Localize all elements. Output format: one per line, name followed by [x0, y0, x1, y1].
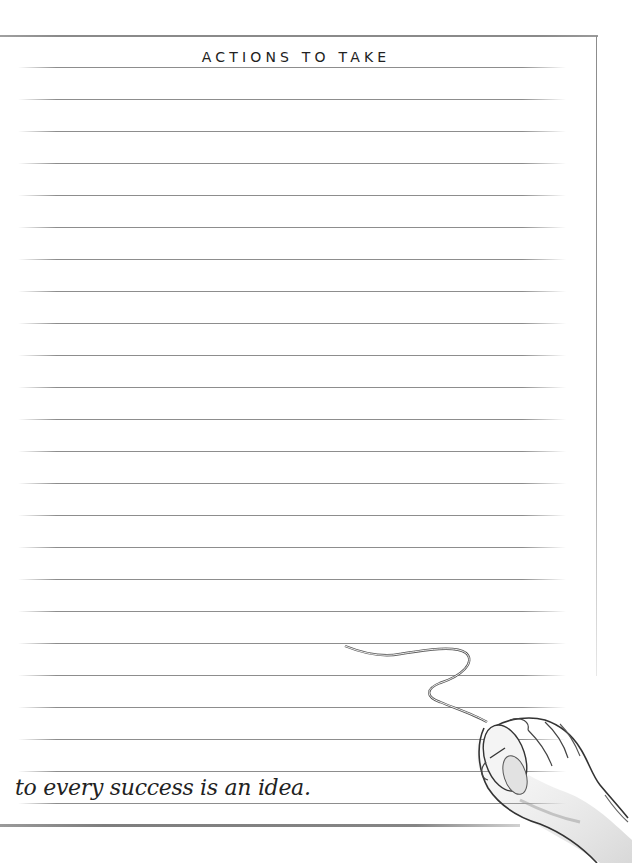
ruled-line: [18, 195, 566, 196]
ruled-line: [18, 291, 566, 292]
ruled-line: [18, 387, 566, 388]
ruled-line: [18, 611, 566, 612]
ruled-line: [18, 483, 566, 484]
ruled-line: [18, 355, 566, 356]
ruled-line: [18, 419, 566, 420]
ruled-line: [18, 547, 566, 548]
page-title: ACTIONS TO TAKE: [0, 49, 592, 65]
ruled-line: [18, 259, 566, 260]
tagline-text: to every success is an idea.: [15, 774, 311, 802]
ruled-line: [18, 227, 566, 228]
ruled-line: [18, 515, 566, 516]
ruled-line: [18, 579, 566, 580]
frame-top-border: [0, 35, 598, 37]
ruled-line: [18, 131, 566, 132]
ruled-line: [18, 67, 566, 68]
ruled-line: [18, 163, 566, 164]
ruled-line: [18, 323, 566, 324]
ruled-line: [18, 99, 566, 100]
notebook-page: ACTIONS TO TAKE to every success is an i…: [0, 0, 632, 863]
ruled-line: [18, 451, 566, 452]
frame-right-border: [596, 36, 597, 676]
hand-on-computer-mouse-icon: [330, 630, 632, 863]
